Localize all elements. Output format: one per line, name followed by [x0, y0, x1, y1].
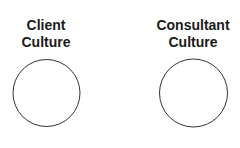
diagram-canvas [0, 0, 240, 148]
consultant-culture-circle [160, 59, 228, 127]
client-culture-circle [13, 60, 80, 127]
